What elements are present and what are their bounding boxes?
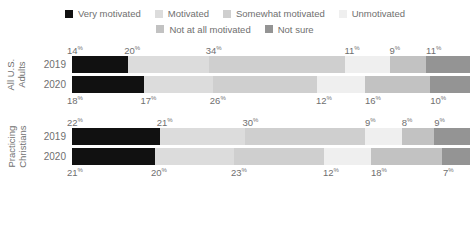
bar-segment[interactable]	[213, 76, 318, 93]
data-label-value: 11	[426, 45, 436, 56]
percent-sign: %	[395, 45, 400, 51]
bar-segment[interactable]	[317, 76, 365, 93]
data-label: 11%	[344, 45, 359, 56]
bar-segment[interactable]	[234, 148, 325, 165]
data-label: 26%	[210, 95, 226, 106]
chart-groups: All U.S.Adults14%20%34%11%9%11%201920201…	[0, 43, 470, 178]
square-swatch	[265, 25, 273, 33]
stacked-bar	[72, 128, 470, 145]
legend-item[interactable]: Not at all motivated	[156, 25, 250, 35]
row-year-label: 2019	[34, 60, 72, 70]
data-label: 34%	[206, 45, 222, 56]
data-label: 18%	[371, 167, 387, 178]
legend-item[interactable]: Motivated	[155, 9, 209, 19]
percent-sign: %	[354, 45, 359, 51]
bar-segment[interactable]	[442, 148, 470, 165]
chart-rows: 22%21%30%9%8%9%2019202021%20%23%12%18%7%	[34, 115, 470, 178]
legend-item-label: Unmotivated	[352, 9, 405, 19]
data-label-strip: 14%20%34%11%9%11%	[34, 43, 470, 56]
percent-sign: %	[151, 95, 156, 101]
legend-item[interactable]: Somewhat motivated	[223, 9, 325, 19]
percent-sign: %	[370, 117, 375, 123]
stacked-bar	[72, 56, 470, 73]
data-label: 18%	[67, 95, 83, 106]
percent-sign: %	[78, 95, 83, 101]
row-year-label: 2020	[34, 152, 72, 162]
bar-segment[interactable]	[434, 128, 470, 145]
bar-segment[interactable]	[72, 56, 128, 73]
percent-sign: %	[327, 95, 332, 101]
data-label: 17%	[140, 95, 156, 106]
data-label-value: 21	[67, 167, 78, 178]
bar-segment[interactable]	[324, 148, 371, 165]
bar-segment[interactable]	[72, 128, 160, 145]
bar-segment[interactable]	[128, 56, 208, 73]
bar-segment[interactable]	[426, 56, 470, 73]
data-label: 12%	[323, 167, 339, 178]
legend-row-2: Not at all motivatedNot sure	[0, 25, 470, 35]
bar-row: 2019	[34, 128, 470, 145]
data-label-value: 18	[67, 95, 78, 106]
legend-item-label: Motivated	[168, 9, 209, 19]
bar-segment[interactable]	[160, 128, 244, 145]
bar-segment[interactable]	[72, 76, 144, 93]
group-axis-title-line1: Practicing	[6, 125, 17, 167]
data-label: 21%	[157, 117, 173, 128]
legend-item-label: Not at all motivated	[169, 25, 250, 35]
data-label-value: 20	[124, 45, 135, 56]
percent-sign: %	[407, 117, 412, 123]
legend-item[interactable]: Unmotivated	[339, 9, 405, 19]
bar-segment[interactable]	[371, 148, 442, 165]
chart-group-inner: PracticingChristians22%21%30%9%8%9%20192…	[0, 115, 470, 178]
bar-segment[interactable]	[390, 56, 426, 73]
bar-segment[interactable]	[72, 148, 155, 165]
square-swatch	[223, 10, 231, 18]
data-label-value: 26	[210, 95, 221, 106]
data-label: 21%	[67, 167, 83, 178]
bar-segment[interactable]	[365, 128, 401, 145]
percent-sign: %	[375, 95, 380, 101]
percent-sign: %	[242, 167, 247, 173]
bar-segment[interactable]	[430, 76, 470, 93]
data-label-strip: 22%21%30%9%8%9%	[34, 115, 470, 128]
data-label-value: 11	[344, 45, 354, 56]
data-label: 16%	[365, 95, 381, 106]
bar-segment[interactable]	[209, 56, 346, 73]
data-label-value: 21	[157, 117, 168, 128]
group-axis-title: All U.S.Adults	[0, 43, 34, 106]
data-label-value: 12	[323, 167, 334, 178]
percent-sign: %	[436, 45, 441, 51]
bar-row: 2020	[34, 76, 470, 93]
legend-item-label: Very motivated	[78, 9, 141, 19]
bar-segment[interactable]	[365, 76, 429, 93]
legend-row-1: Very motivatedMotivatedSomewhat motivate…	[0, 9, 470, 19]
bar-segment[interactable]	[144, 76, 212, 93]
data-label: 20%	[124, 45, 140, 56]
chart-group: PracticingChristians22%21%30%9%8%9%20192…	[0, 115, 470, 178]
data-label: 9%	[434, 117, 445, 128]
bar-segment[interactable]	[402, 128, 434, 145]
legend-item[interactable]: Not sure	[265, 25, 314, 35]
data-label: 12%	[316, 95, 332, 106]
percent-sign: %	[220, 95, 225, 101]
bar-row: 2019	[34, 56, 470, 73]
data-label-value: 23	[231, 167, 242, 178]
row-year-label: 2020	[34, 80, 72, 90]
data-label: 8%	[402, 117, 413, 128]
legend-item[interactable]: Very motivated	[65, 9, 141, 19]
data-label-value: 18	[371, 167, 382, 178]
square-swatch	[65, 10, 73, 18]
percent-sign: %	[216, 45, 221, 51]
percent-sign: %	[334, 167, 339, 173]
percent-sign: %	[78, 45, 83, 51]
data-label: 9%	[365, 117, 376, 128]
stacked-bar	[72, 148, 470, 165]
row-year-label: 2019	[34, 132, 72, 142]
data-label-value: 30	[242, 117, 253, 128]
bar-segment[interactable]	[345, 56, 389, 73]
bar-segment[interactable]	[155, 148, 234, 165]
percent-sign: %	[78, 167, 83, 173]
group-axis-title-line2: Adults	[17, 59, 28, 91]
bar-segment[interactable]	[245, 128, 366, 145]
data-label: 14%	[67, 45, 83, 56]
